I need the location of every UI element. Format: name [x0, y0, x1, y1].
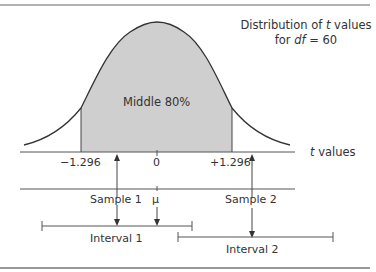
title-df-value: = 60	[306, 33, 338, 47]
middle-80-label: Middle 80%	[123, 95, 190, 109]
title-var-df: df	[294, 33, 305, 47]
middle-80-region	[81, 22, 232, 152]
tick-label-zero: 0	[153, 156, 160, 169]
axis-label-suffix: values	[315, 145, 356, 159]
title-text: Distribution of	[240, 18, 326, 32]
sample1-arrowhead-up	[114, 154, 120, 161]
sample2-label: Sample 2	[225, 193, 277, 206]
tick-label-neg: −1.296	[60, 156, 101, 169]
mu-arrowhead	[154, 219, 160, 226]
axis-label: t values	[310, 145, 356, 159]
distribution-title: Distribution of t values for df = 60	[236, 18, 376, 48]
interval1-label: Interval 1	[90, 232, 143, 245]
interval2-label: Interval 2	[226, 243, 279, 256]
mu-label: μ	[152, 193, 159, 206]
title-line2: for	[275, 33, 294, 47]
tick-label-pos: +1.296	[210, 156, 251, 169]
sample1-label: Sample 1	[90, 193, 142, 206]
sample1-arrowhead-down	[114, 219, 120, 226]
title-text-suffix: values	[330, 18, 371, 32]
